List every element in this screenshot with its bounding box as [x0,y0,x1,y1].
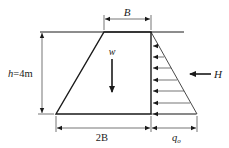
dimension-height: h=4m [8,33,54,114]
wall-trapezoid [56,32,151,114]
label-horizontal-force: H [213,68,223,80]
dimension-top-width: B [104,6,151,30]
label-top-width: B [124,6,131,18]
dimension-bottom-width: 2B [56,116,151,143]
dimension-pressure-base: qo [152,116,197,145]
label-bottom-width: 2B [96,132,108,143]
weight-force: w [109,46,116,92]
label-weight: w [109,46,116,57]
label-height: h=4m [8,68,33,79]
diagram-canvas: B h=4m w H 2B qo [0,0,229,148]
pressure-distribution [151,32,197,114]
label-pressure-base: qo [172,132,181,145]
horizontal-force: H [190,68,223,80]
